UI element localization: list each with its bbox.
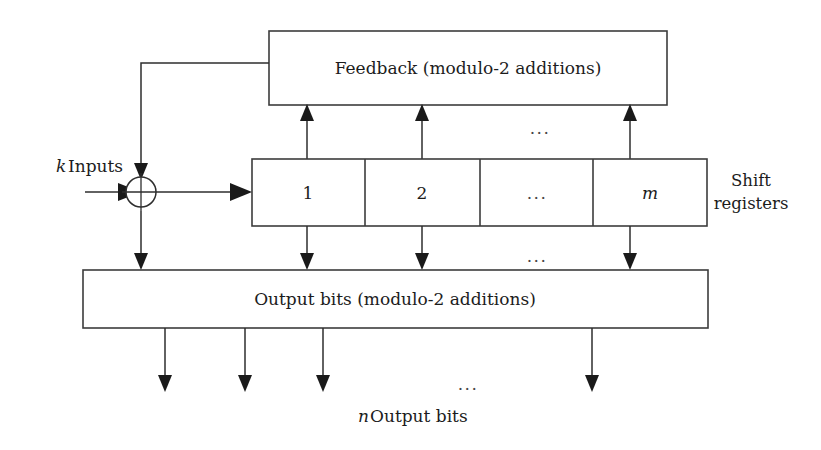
- shift-registers-side-label: Shift registers: [714, 171, 789, 213]
- output-gap-ellipsis: ...: [527, 246, 548, 266]
- input-label: Inputs: [68, 156, 123, 176]
- feedback-box-label: Feedback (modulo-2 additions): [335, 58, 602, 78]
- shift-registers-label-line2: registers: [714, 194, 789, 213]
- output-bit-arrowhead-1: [158, 375, 172, 392]
- shift-register-cell-3-label: ...: [527, 183, 548, 203]
- shift-registers-label-line1: Shift: [731, 171, 771, 190]
- output-bits-caption: n Output bits: [358, 406, 468, 426]
- output-bit-arrowhead-4: [585, 375, 599, 392]
- adder-to-register-arrowhead: [230, 183, 252, 201]
- shift-register-cell-4-label: m: [642, 183, 658, 203]
- output-tap-arrowhead-1: [300, 253, 314, 270]
- feedback-tap-wires: ...: [300, 104, 637, 159]
- feedback-block: Feedback (modulo-2 additions): [269, 31, 667, 105]
- shift-register-block: 1 2 ... m: [252, 159, 707, 226]
- input-count-symbol: k: [56, 156, 66, 176]
- convolutional-encoder-diagram: Feedback (modulo-2 additions) ... 1 2 ..: [0, 0, 821, 450]
- feedback-wire-path: [141, 63, 269, 166]
- input-adder-group: k Inputs: [56, 156, 252, 270]
- feedback-return-wire: [134, 63, 269, 180]
- diagram-canvas: Feedback (modulo-2 additions) ... 1 2 ..: [0, 0, 821, 450]
- output-tap-arrowhead-2: [415, 253, 429, 270]
- output-bit-arrows: ...: [158, 328, 599, 394]
- shift-register-cell-1-label: 1: [303, 183, 314, 203]
- adder-to-output-arrowhead: [134, 253, 148, 270]
- output-count-symbol: n: [358, 406, 369, 426]
- bottom-gap-ellipsis: ...: [458, 374, 479, 394]
- feedback-tap-arrowhead-1: [300, 104, 314, 121]
- output-tap-arrowhead-3: [623, 253, 637, 270]
- output-caption-label: Output bits: [370, 406, 468, 426]
- output-bit-arrowhead-3: [316, 375, 330, 392]
- output-bits-block: Output bits (modulo-2 additions): [83, 270, 708, 328]
- feedback-gap-ellipsis: ...: [530, 118, 551, 138]
- output-bits-box-label: Output bits (modulo-2 additions): [254, 289, 536, 309]
- shift-register-cell-2-label: 2: [417, 183, 428, 203]
- feedback-tap-arrowhead-3: [623, 104, 637, 121]
- output-bit-arrowhead-2: [238, 375, 252, 392]
- feedback-tap-arrowhead-2: [415, 104, 429, 121]
- output-tap-wires: ...: [300, 226, 637, 270]
